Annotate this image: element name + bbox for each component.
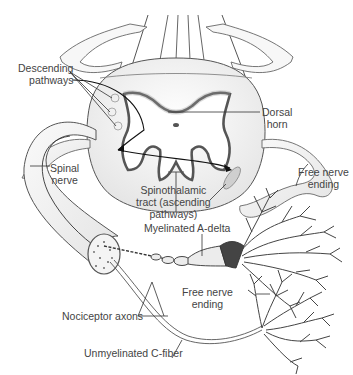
label-line: pathways: [18, 74, 73, 86]
label-line: ending: [182, 298, 233, 310]
label-line: Free nerve: [298, 166, 349, 178]
label-nociceptor-axons: Nociceptor axons: [62, 310, 143, 322]
label-dorsal-horn: Dorsal horn: [262, 106, 292, 130]
label-line: nerve: [50, 174, 79, 186]
label-spinal-nerve: Spinal nerve: [50, 162, 79, 186]
label-line: Free nerve: [182, 286, 233, 298]
label-line: tract (ascending: [136, 196, 211, 208]
label-line: pathways): [136, 208, 211, 220]
label-line: Descending: [18, 62, 73, 74]
label-line: Dorsal: [262, 106, 292, 118]
label-descending-pathways: Descending pathways: [18, 62, 73, 86]
myelinated-a-delta-fiber: [104, 242, 244, 269]
central-canal: [173, 123, 179, 127]
label-free-nerve-ending-upper: Free nerve ending: [298, 166, 349, 190]
label-line: Spinothalamic: [136, 184, 211, 196]
label-myelinated-a-delta: Myelinated A-delta: [144, 222, 230, 234]
pain-pathway-diagram: Descending pathways Dorsal horn Spinal n…: [0, 0, 353, 375]
label-line: horn: [262, 118, 292, 130]
label-line: ending: [298, 178, 349, 190]
label-line: Spinal: [50, 162, 79, 174]
label-spinothalamic-tract: Spinothalamic tract (ascending pathways): [136, 184, 211, 220]
label-free-nerve-ending-lower: Free nerve ending: [182, 286, 233, 310]
label-unmyelinated-c-fiber: Unmyelinated C-fiber: [84, 347, 183, 359]
